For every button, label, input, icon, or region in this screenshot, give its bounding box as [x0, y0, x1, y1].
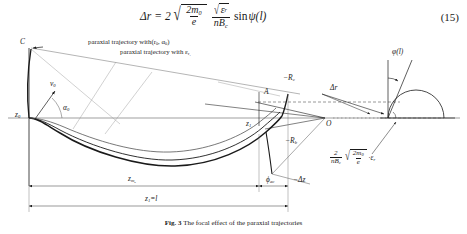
construction-line-c-1: [31, 49, 120, 124]
annotation-paraxial-1-text: paraxial trajectory with(r: [88, 38, 156, 45]
leader-line-paraxial-1: [73, 62, 116, 129]
phi-l-ray: [388, 60, 412, 118]
c-arrow: [33, 47, 43, 48]
label-phi-l: φ(l): [392, 48, 403, 56]
label-z0: z0: [15, 111, 20, 120]
inset-formula-radical: √ 2m0 e: [344, 149, 367, 166]
trajectory-outer-tail: [282, 94, 288, 116]
caption-label: Fig. 3: [165, 219, 182, 227]
trajectory-inner-2: [29, 108, 276, 152]
equation-equals: =: [151, 10, 165, 22]
label-point-o: O: [326, 120, 331, 128]
inset-formula-tail: ·εr: [369, 153, 376, 162]
equation-sin: sin: [234, 10, 247, 22]
equation-lhs: Δr: [140, 10, 151, 22]
label-z1-equals-l: z1=l: [145, 195, 157, 204]
label-zm0: zm0: [128, 175, 136, 184]
label-neg-delta-z: −Δz: [293, 176, 305, 184]
label-neg-rc: −Rc: [283, 74, 295, 83]
label-phi-ac: ϕac: [266, 176, 274, 185]
annotation-paraxial-2: paraxial trajectory with εr1: [120, 49, 191, 58]
figure-diagram: paraxial trajectory with(r0, α0) paraxia…: [0, 34, 467, 219]
label-point-a: A: [264, 88, 269, 96]
trajectory-descend-tail: [266, 132, 272, 174]
label-neg-rb: −Rb: [285, 137, 297, 146]
nbc-den: nB: [214, 17, 225, 28]
equation-15: Δr = 2 √ 2m0 e √ εr nBc: [140, 3, 266, 29]
equation-radical-eps: √ εr: [213, 3, 230, 16]
radical-sign-icon-2: √: [214, 3, 219, 16]
annotation-paraxial-2-text: paraxial trajectory with ε: [120, 48, 188, 55]
radical-numerator-sub: 0: [198, 9, 201, 16]
semicircle-inset: [388, 90, 444, 118]
figure-caption: Fig. 3 The focal effect of the paraxial …: [0, 219, 467, 227]
equation-row: Δr = 2 √ 2m0 e √ εr nBc: [0, 2, 467, 34]
label-delta-r: Δr: [330, 84, 337, 92]
figure-svg: [0, 34, 467, 219]
v0-arrow: [35, 91, 55, 119]
equation-fraction-eps-nbc: √ εr nBc: [210, 3, 233, 29]
trajectory-outer: [29, 116, 282, 166]
inset-formula-leader: [372, 122, 396, 154]
inset-angle-arc: [393, 112, 396, 118]
leader-line-paraxial-2: [105, 72, 152, 134]
chord-a-to-o: [255, 102, 325, 118]
label-v0: v0: [50, 80, 56, 89]
equation-radical-main: √ 2m0 e: [172, 4, 207, 28]
equation-psi: ψ(l): [248, 10, 266, 22]
inset-formula-fraction: 2 nBc: [330, 150, 342, 166]
radical-sign-icon: √: [173, 4, 180, 28]
alpha0-arc: [52, 98, 62, 118]
equation-coefficient: 2: [165, 10, 171, 22]
caption-text: The focal effect of the paraxial traject…: [183, 219, 302, 227]
nbc-den-sub: c: [225, 21, 228, 28]
eps-sub: r: [225, 7, 227, 14]
delta-r-arrow-2: [322, 94, 370, 114]
annotation-paraxial-1: paraxial trajectory with(r0, α0): [88, 39, 169, 46]
inset-formula: 2 nBc √ 2m0 e ·εr: [330, 149, 375, 166]
label-point-c: C: [20, 38, 25, 46]
radical-denominator: e: [190, 16, 198, 28]
figure-page: Δr = 2 √ 2m0 e √ εr nBc: [0, 0, 467, 234]
label-z1: z1: [246, 120, 251, 129]
chord-upper-to-o: [205, 104, 325, 118]
equation-fraction-m0-e: 2m0 e: [184, 5, 203, 28]
trajectory-inner-1: [29, 112, 280, 160]
equation-number: (15): [441, 11, 459, 23]
phi-l-angle-arc: [388, 78, 398, 81]
delta-r-arrow: [322, 94, 384, 114]
radical-sign-icon-3: √: [345, 149, 350, 166]
label-alpha0: α0: [63, 104, 69, 113]
radical-numerator: 2m: [186, 4, 198, 15]
